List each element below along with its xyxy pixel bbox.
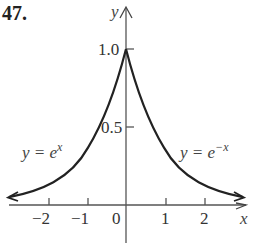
x-tick-label: 2 [200, 209, 209, 228]
y-tick-label: 1.0 [98, 40, 119, 59]
x-ticks [49, 198, 205, 205]
y-axis-label: y [109, 2, 119, 21]
curve-exp-neg-x [126, 49, 243, 197]
x-tick-label: −1 [71, 209, 89, 228]
right-curve-label: y = e−x [178, 140, 229, 162]
y-tick-label: 0.5 [101, 118, 122, 137]
x-axis-label: x [239, 209, 248, 228]
x-tick-label: 0 [112, 209, 121, 228]
left-curve-label: y = ex [20, 140, 63, 162]
graph: 47. −2 −1 0 1 2 1.0 0.5 y x y = ex y = e… [0, 0, 263, 243]
x-tick-label: −2 [32, 209, 50, 228]
problem-number: 47. [2, 2, 27, 24]
x-tick-label: 1 [161, 209, 170, 228]
